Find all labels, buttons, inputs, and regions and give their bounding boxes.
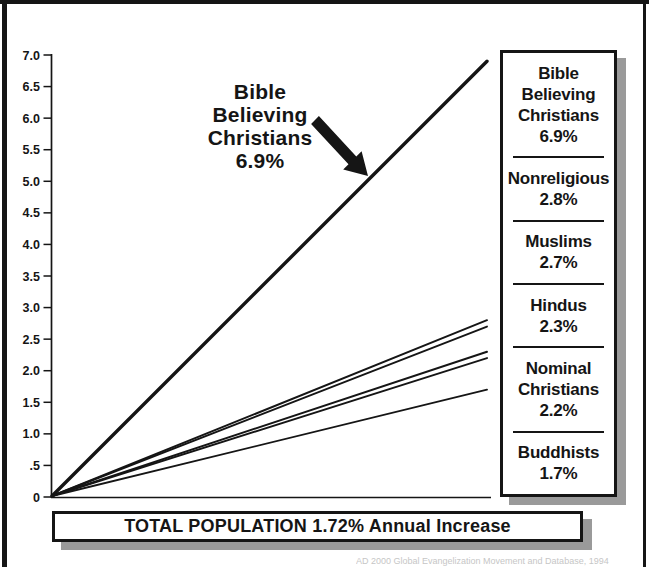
source-caption: AD 2000 Global Evangelization Movement a… [356,556,640,566]
legend-entry: Nominal Christians 2.2% [503,348,614,430]
y-tick-label: 3.5 [23,270,40,284]
y-axis-ticks: 7.06.56.05.55.04.54.03.53.02.52.01.51.0.… [23,49,52,505]
y-tick-label: 7.0 [23,49,40,63]
legend-entry: Buddhists 1.7% [503,433,614,494]
legend-entry-value: 2.8% [504,189,613,210]
legend-entry-value: 1.7% [504,463,613,484]
legend-entry-label: Buddhists [504,442,613,463]
y-tick-label: 1.5 [23,396,40,410]
y-tick-label: 5.0 [23,175,40,189]
y-tick-label: 2.0 [23,364,40,378]
total-population-label: TOTAL POPULATION 1.72% Annual Increase [124,516,511,537]
scanned-chart-page: 7.06.56.05.55.04.54.03.53.02.52.01.51.0.… [0,0,649,567]
legend-entry: Bible Believing Christians 6.9% [503,53,614,156]
y-tick-label: 2.5 [23,333,40,347]
legend-entry-label: Muslims [504,231,613,252]
legend-entry-value: 6.9% [504,126,613,147]
series-line-buddhists [52,390,487,496]
legend-entry-value: 2.3% [504,316,613,337]
legend-entry-label: Hindus [504,295,613,316]
y-tick-label: 5.5 [23,143,40,157]
y-tick-label: .5 [30,459,40,473]
y-tick-label: 3.0 [23,301,40,315]
legend-entry: Nonreligious 2.8% [503,158,614,219]
series-line-muslims [52,327,487,496]
y-tick-label: 1.0 [23,427,40,441]
chart-annotation: Bible Believing Christians 6.9% [188,80,332,172]
legend-entry-value: 2.2% [504,400,613,421]
y-tick-label: 4.5 [23,206,40,220]
y-tick-label: 6.0 [23,112,40,126]
legend-box: Bible Believing Christians 6.9% Nonrelig… [500,50,617,497]
legend-entry-value: 2.7% [504,252,613,273]
series-line-nominal-christians [52,358,487,496]
legend-entry: Muslims 2.7% [503,222,614,283]
y-tick-label: 0 [33,491,40,505]
y-tick-label: 4.0 [23,238,40,252]
y-tick-label: 6.5 [23,80,40,94]
legend-entry-label: Nominal Christians [504,358,613,400]
legend-entry: Hindus 2.3% [503,285,614,346]
legend-entry-label: Nonreligious [504,168,613,189]
total-population-bar: TOTAL POPULATION 1.72% Annual Increase [52,511,583,542]
legend-entry-label: Bible Believing Christians [504,63,613,126]
